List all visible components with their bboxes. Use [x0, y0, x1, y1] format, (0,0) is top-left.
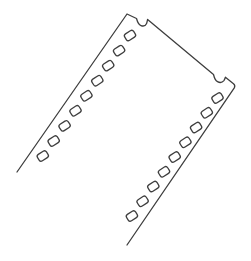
sprocket-hole-left-8 — [47, 135, 60, 147]
filmstrip-outline — [17, 14, 235, 245]
sprocket-hole-left-1 — [123, 29, 136, 41]
sprocket-hole-right-5 — [168, 151, 181, 163]
sprocket-hole-right-3 — [190, 121, 203, 133]
sprocket-hole-right-1 — [211, 92, 224, 104]
sprocket-hole-left-2 — [113, 45, 126, 57]
sprocket-hole-left-5 — [80, 90, 93, 102]
sprocket-hole-right-7 — [147, 180, 160, 192]
sprocket-hole-right-8 — [136, 195, 149, 207]
sprocket-hole-left-6 — [69, 105, 82, 117]
filmstrip-illustration — [0, 0, 251, 261]
sprocket-hole-left-3 — [102, 60, 115, 72]
sprocket-hole-right-6 — [157, 166, 170, 178]
sprocket-hole-right-2 — [200, 107, 213, 119]
sprocket-hole-left-9 — [36, 150, 49, 162]
sprocket-hole-left-7 — [58, 120, 71, 132]
filmstrip-drawing — [0, 0, 251, 261]
sprocket-hole-right-4 — [179, 136, 192, 148]
sprocket-hole-right-9 — [125, 210, 138, 222]
sprocket-hole-left-4 — [91, 75, 104, 87]
